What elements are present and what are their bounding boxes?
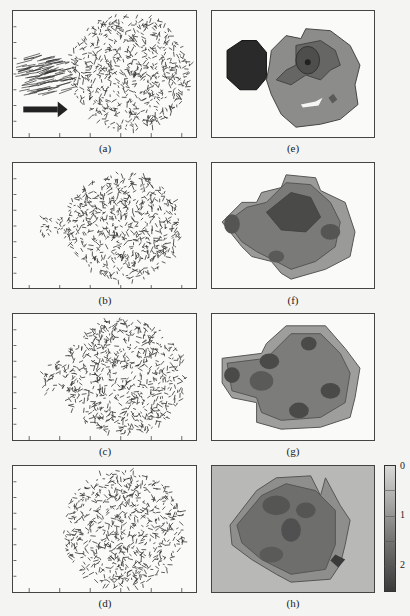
panel-d-vector-field [12,465,197,593]
colorbar-tick-0: 0 [400,460,405,471]
panel-label-g: (g) [263,445,323,457]
panel-label-c: (c) [75,445,135,457]
colorbar-tick-mark [384,490,396,491]
right-arrow-icon [23,102,67,118]
panel-label-d: (d) [75,597,135,609]
contour-plot-e [212,11,374,137]
panel-g-contour [211,313,375,441]
panel-label-a: (a) [75,142,135,154]
panel-c-vector-field [12,313,197,441]
panel-a-vector-field [12,10,197,138]
colorbar-tick-2: 2 [400,559,405,570]
panel-f-contour [211,162,375,289]
panel-label-e: (e) [263,142,323,154]
colorbar-tick-mark [384,516,396,517]
panel-label-b: (b) [75,294,135,306]
vector-field-plot-c [13,314,196,440]
panel-label-f: (f) [263,294,323,306]
contour-plot-h [212,466,374,592]
contour-plot-f [212,163,374,288]
vector-field-plot-d [13,466,196,592]
colorbar-tick-mark [384,566,396,567]
colorbar-tick-mark [384,541,396,542]
panel-label-h: (h) [263,597,323,609]
vector-field-plot-b [13,163,196,288]
panel-e-contour [211,10,375,138]
colorbar [384,465,396,592]
panel-b-vector-field [12,162,197,289]
contour-plot-g [212,314,374,440]
vector-field-plot-a [13,11,196,137]
panel-h-contour [211,465,375,593]
colorbar-tick-1: 1 [400,509,405,520]
